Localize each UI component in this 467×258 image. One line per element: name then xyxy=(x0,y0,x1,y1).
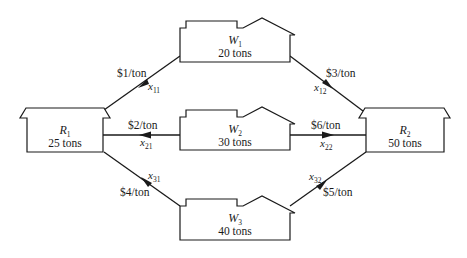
node-w1: W1 20 tons xyxy=(180,18,295,62)
cost-label-x31: $4/ton xyxy=(120,186,150,198)
w3-capacity: 40 tons xyxy=(218,225,252,237)
edge-x32: $5/ton x32 xyxy=(290,152,366,206)
node-w2: W2 30 tons xyxy=(180,107,295,150)
transportation-diagram: $1/ton x11 $3/ton x12 $2/ton x21 $6/ton … xyxy=(0,0,467,258)
cost-label-x32: $5/ton xyxy=(323,186,353,198)
cost-label-x11: $1/ton xyxy=(117,67,147,79)
edge-x12: $3/ton x12 xyxy=(290,56,363,111)
edge-x21: $2/ton x21 xyxy=(103,119,180,151)
node-w3: W3 40 tons xyxy=(180,196,295,240)
var-label-x11: x11 xyxy=(147,80,160,95)
var-label-x32: x32 xyxy=(308,170,322,185)
edge-x11: $1/ton x11 xyxy=(104,56,180,110)
var-label-x22: x22 xyxy=(319,137,333,152)
r2-capacity: 50 tons xyxy=(388,137,422,149)
w2-capacity: 30 tons xyxy=(218,136,252,148)
cost-label-x12: $3/ton xyxy=(326,67,356,79)
cost-label-x21: $2/ton xyxy=(128,119,158,131)
cost-label-x22: $6/ton xyxy=(311,119,341,131)
edge-x31: $4/ton x31 xyxy=(104,152,180,206)
w1-capacity: 20 tons xyxy=(218,47,252,59)
node-r2: R2 50 tons xyxy=(359,108,450,152)
node-r1: R1 25 tons xyxy=(20,108,110,152)
r1-capacity: 25 tons xyxy=(48,137,82,149)
edge-x22: $6/ton x22 xyxy=(290,119,366,152)
